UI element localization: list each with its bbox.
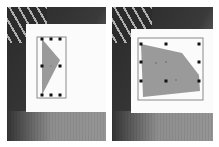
shape-editor-after[interactable] xyxy=(112,7,213,141)
handle-bottom-left[interactable] xyxy=(140,80,143,83)
handle-bottom-left[interactable] xyxy=(41,94,44,97)
handle-top-right[interactable] xyxy=(198,43,201,46)
handle-top-center[interactable] xyxy=(50,38,53,41)
panel-after xyxy=(112,7,213,141)
panel-before xyxy=(7,7,106,141)
handle-middle-right[interactable] xyxy=(198,61,201,64)
handle-bottom-right[interactable] xyxy=(59,94,62,97)
handle-top-center[interactable] xyxy=(165,43,168,46)
handle-middle-left[interactable] xyxy=(41,65,44,68)
quadrilateral-shape[interactable] xyxy=(141,44,200,97)
handle-top-left[interactable] xyxy=(140,43,143,46)
handle-bottom-center[interactable] xyxy=(165,80,168,83)
handle-bottom-right[interactable] xyxy=(198,80,201,83)
center-point xyxy=(50,65,52,67)
handle-middle-right[interactable] xyxy=(59,65,62,68)
handle-middle-left[interactable] xyxy=(140,61,143,64)
triangle-shape[interactable] xyxy=(42,39,60,95)
shape-editor-before[interactable] xyxy=(7,7,106,141)
handle-top-right[interactable] xyxy=(59,38,62,41)
handle-bottom-center[interactable] xyxy=(50,94,53,97)
handle-top-left[interactable] xyxy=(41,38,44,41)
